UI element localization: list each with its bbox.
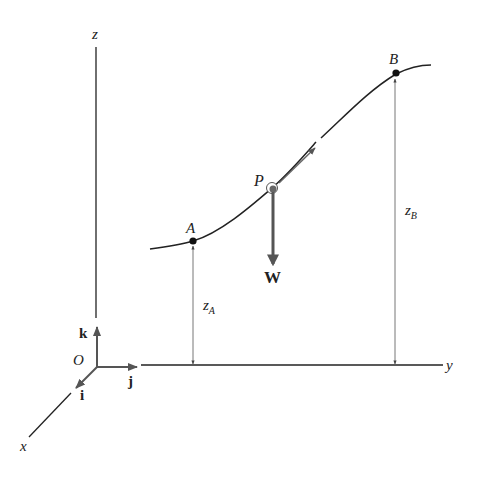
point-a-label: A xyxy=(185,220,196,236)
k-unit-vector-label: k xyxy=(79,325,88,341)
particle-p xyxy=(267,183,278,194)
y-axis-label: y xyxy=(444,357,453,373)
point-b-label: B xyxy=(389,51,398,67)
weight-vector-label: W xyxy=(264,268,281,287)
z-axis-label: z xyxy=(91,26,98,42)
i-unit-vector-label: i xyxy=(80,387,84,403)
zb-dimension-label: zB xyxy=(404,202,417,221)
x-axis-label: x xyxy=(19,438,27,454)
j-unit-vector-label: j xyxy=(127,373,133,389)
point-b-marker xyxy=(392,69,399,76)
point-a-marker xyxy=(189,237,196,244)
tangent-direction-arrow xyxy=(279,148,315,183)
i-unit-vector xyxy=(76,367,97,388)
origin-label: O xyxy=(73,352,84,368)
x-axis xyxy=(29,393,71,437)
point-p-label: P xyxy=(253,172,264,189)
za-dimension-label: zA xyxy=(202,297,216,316)
work-of-weight-diagram: z k O j y i x A B P xyxy=(0,0,478,478)
